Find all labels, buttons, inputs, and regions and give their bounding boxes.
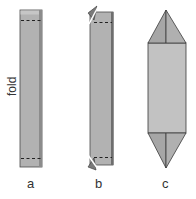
fold-diagram: fold a b c [0,0,196,199]
panel-b: b [88,5,114,191]
paper-strip-b [90,12,113,165]
paper-strip-a [20,10,42,167]
paper-body-c [148,43,186,133]
paper-edge-shade-b [111,12,114,165]
top-point-left-c [148,10,166,43]
bottom-point-left-c [148,133,166,168]
bottom-point-right-c [166,133,186,168]
panel-a: fold a [5,10,42,191]
panel-c: c [148,10,186,191]
top-point-right-c [166,10,186,43]
fold-annotation: fold [5,77,19,96]
panel-label-a: a [27,176,35,191]
panel-label-b: b [95,176,102,191]
panel-label-c: c [162,176,169,191]
paper-edge-shade-a [39,10,42,167]
paper-top-band-a [21,11,40,15]
